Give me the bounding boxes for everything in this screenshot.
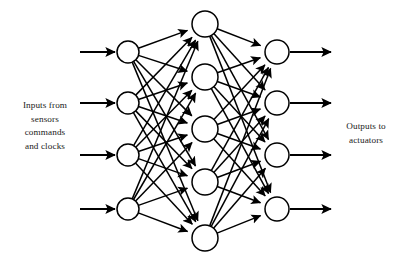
hidden-node-3 — [192, 116, 218, 142]
output-node-3 — [265, 143, 289, 167]
input-label-line-1: Inputs from — [6, 99, 84, 113]
output-label-line-1: Outputs to — [330, 120, 402, 134]
output-node-1 — [265, 40, 289, 64]
hidden-node-1 — [192, 11, 218, 37]
input-node-2 — [117, 92, 139, 114]
input-label-line-2: sensors — [6, 113, 84, 127]
input-nodes-group — [117, 41, 139, 220]
input-node-3 — [117, 144, 139, 166]
input-label: Inputs from sensors commands and clocks — [6, 99, 84, 153]
input-label-line-4: and clocks — [6, 140, 84, 154]
output-nodes-group — [265, 40, 289, 221]
edges-hidden-to-output — [210, 29, 271, 233]
output-node-4 — [265, 197, 289, 221]
hidden-node-4 — [192, 169, 218, 195]
input-node-1 — [117, 41, 139, 63]
neural-network-diagram: Inputs from sensors commands and clocks … — [0, 0, 404, 267]
input-label-line-3: commands — [6, 126, 84, 140]
output-node-2 — [265, 91, 289, 115]
input-arrows-group — [80, 52, 115, 209]
output-label-line-2: actuators — [330, 134, 402, 148]
edges-input-to-hidden — [132, 30, 198, 231]
hidden-node-5 — [192, 225, 218, 251]
hidden-node-2 — [192, 64, 218, 90]
input-node-4 — [117, 198, 139, 220]
output-label: Outputs to actuators — [330, 120, 402, 147]
output-arrows-group — [290, 52, 331, 209]
